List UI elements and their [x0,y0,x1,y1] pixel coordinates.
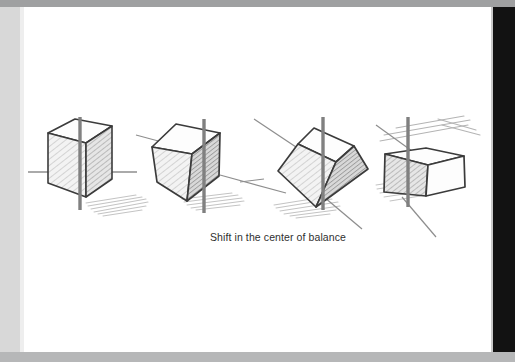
figure-3-corner-balanced-cube [240,117,368,229]
figure-3-direction-line-left [240,179,264,182]
drawing-page: Shift in the center of balance [24,7,491,352]
right-dark-panel [493,7,515,352]
figure-3-direction-line-lower [324,197,362,229]
illustration-caption: Shift in the center of balance [178,231,378,244]
window-top-bar [0,0,515,7]
figure-2-face-left [152,147,192,201]
figure-3-shadow [274,197,340,218]
screenshot-root: Shift in the center of balance [0,0,515,362]
window-bottom-bar [0,352,515,362]
figure-1-shadow [86,195,148,216]
figure-4-motion-lines [380,116,480,141]
figure-4-falling-cube [376,116,480,237]
figure-2-ground-line-right [220,175,286,193]
figure-1-upright-cube [28,117,148,216]
left-margin-panel [0,7,20,352]
sketch-illustration [24,7,491,352]
figure-2-tilted-cube [136,119,286,213]
figure-3-direction-line-upper [254,119,296,147]
